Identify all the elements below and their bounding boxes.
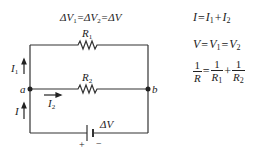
node-b-label: b xyxy=(152,84,158,95)
battery-minus: − xyxy=(96,139,102,149)
label-i2: I2 xyxy=(48,98,55,111)
label-i1: I1 xyxy=(11,63,18,76)
battery-label: ΔV xyxy=(100,119,113,130)
node-a xyxy=(28,87,33,92)
arrow-i2 xyxy=(44,93,61,97)
top-wire xyxy=(30,41,148,49)
label-r1: R1 xyxy=(82,28,92,41)
title-equation: ΔV1=ΔV2=ΔV xyxy=(60,12,121,25)
equation-current: I=I1+I2 xyxy=(193,10,231,26)
node-b xyxy=(146,87,151,92)
equation-resistance: 1R=1R1+1R2 xyxy=(193,58,245,85)
arrow-i1 xyxy=(22,59,26,74)
middle-wire xyxy=(30,85,148,93)
node-a-label: a xyxy=(20,84,26,95)
label-i: I xyxy=(15,106,19,117)
arrow-i xyxy=(22,103,26,119)
battery-plus: + xyxy=(79,140,85,150)
label-r2: R2 xyxy=(82,72,92,85)
equation-voltage: V=V1=V2 xyxy=(193,37,241,53)
